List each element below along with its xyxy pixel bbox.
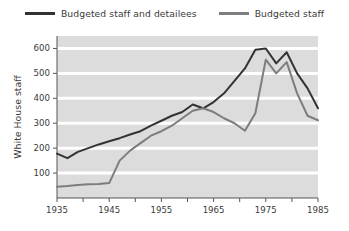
x-tick-label-1975: 1975 [255, 205, 277, 215]
chart-legend: Budgeted staff and detailees Budgeted st… [0, 4, 349, 22]
y-tick-label-100: 100 [34, 168, 50, 178]
x-axis-tick-labels: 193519451955196519751985 [46, 205, 329, 215]
x-tick-label-1965: 1965 [203, 205, 225, 215]
y-tick-label-400: 400 [34, 93, 50, 103]
legend-swatch-gray [219, 12, 249, 15]
y-tick-label-500: 500 [34, 68, 50, 78]
chart-root: Budgeted staff and detailees Budgeted st… [0, 0, 349, 231]
y-axis-title: White House staff [12, 75, 23, 159]
y-tick-label-300: 300 [34, 118, 50, 128]
chart-area: 100200300400500600 193519451955196519751… [0, 22, 349, 231]
x-tick-label-1955: 1955 [150, 205, 172, 215]
x-tick-label-1945: 1945 [98, 205, 120, 215]
x-axis-ticks [57, 198, 318, 202]
legend-item-budgeted-staff-and-detailees: Budgeted staff and detailees [25, 8, 197, 19]
y-tick-label-600: 600 [34, 43, 50, 53]
legend-swatch-dark [25, 12, 55, 15]
legend-label-budgeted-staff-and-detailees: Budgeted staff and detailees [61, 8, 197, 19]
y-axis-tick-labels: 100200300400500600 [34, 43, 50, 178]
x-tick-label-1985: 1985 [307, 205, 329, 215]
legend-label-budgeted-staff: Budgeted staff [255, 8, 324, 19]
legend-item-budgeted-staff: Budgeted staff [219, 8, 324, 19]
y-tick-label-200: 200 [34, 143, 50, 153]
line-chart-svg: 100200300400500600 193519451955196519751… [0, 22, 349, 231]
x-tick-label-1935: 1935 [46, 205, 68, 215]
